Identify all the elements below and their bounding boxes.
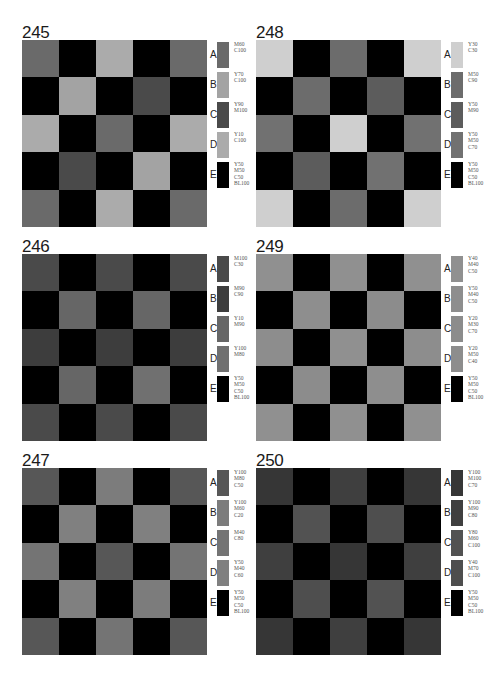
color-swatch bbox=[217, 316, 229, 342]
grid-cell-c bbox=[367, 291, 404, 328]
legend-letter: E bbox=[444, 169, 451, 180]
grid-cell-d bbox=[133, 366, 170, 403]
color-swatch bbox=[451, 162, 463, 188]
grid-cell-e bbox=[293, 543, 330, 580]
color-panel-247: 247AY100 M80 C50BY100 M60 C20CM40 C80DY5… bbox=[22, 452, 274, 667]
grid-cell-e bbox=[256, 580, 293, 617]
grid-cell-b bbox=[256, 543, 293, 580]
grid-cell-e bbox=[367, 190, 404, 227]
grid-cell-e bbox=[404, 291, 441, 328]
cmyk-code-label: Y40 M40 C50 bbox=[468, 255, 478, 274]
grid-cell-e bbox=[59, 40, 96, 77]
grid-cell-a bbox=[404, 190, 441, 227]
cmyk-code-label: Y80 M60 C100 bbox=[468, 529, 480, 548]
grid-cell-a bbox=[96, 543, 133, 580]
grid-cell-d bbox=[367, 152, 404, 189]
grid-cell-e bbox=[96, 152, 133, 189]
grid-cell-d bbox=[59, 505, 96, 542]
grid-cell-e bbox=[133, 404, 170, 441]
grid-cell-e bbox=[59, 543, 96, 580]
color-legend: AY40 M40 C50BY50 M40 C50CY20 M30 C70DY20… bbox=[443, 254, 504, 441]
grid-cell-b bbox=[330, 40, 367, 77]
grid-cell-c bbox=[293, 505, 330, 542]
grid-cell-e bbox=[404, 77, 441, 114]
grid-cell-e bbox=[256, 77, 293, 114]
grid-cell-a bbox=[96, 404, 133, 441]
color-swatch bbox=[217, 102, 229, 128]
color-swatch bbox=[217, 132, 229, 158]
grid-cell-a bbox=[330, 115, 367, 152]
grid-cell-a bbox=[22, 254, 59, 291]
grid-cell-a bbox=[330, 329, 367, 366]
grid-cell-e bbox=[170, 77, 207, 114]
color-swatch bbox=[451, 376, 463, 402]
grid-cell-e bbox=[59, 618, 96, 655]
grid-cell-b bbox=[170, 329, 207, 366]
panel-title: 247 bbox=[22, 452, 49, 469]
grid-cell-c bbox=[133, 291, 170, 328]
grid-cell-e bbox=[367, 40, 404, 77]
legend-letter: B bbox=[210, 507, 217, 518]
grid-cell-d bbox=[59, 580, 96, 617]
legend-row-d: DY20 M50 C40 bbox=[443, 346, 504, 373]
grid-cell-a bbox=[22, 404, 59, 441]
grid-cell-b bbox=[59, 77, 96, 114]
cmyk-code-label: Y50 M50 C50 BL100 bbox=[468, 375, 483, 400]
color-swatch bbox=[451, 500, 463, 526]
grid-cell-a bbox=[22, 618, 59, 655]
grid-cell-e bbox=[367, 543, 404, 580]
grid-cell-e bbox=[256, 152, 293, 189]
grid-cell-a bbox=[170, 254, 207, 291]
grid-cell-a bbox=[330, 404, 367, 441]
grid-cell-e bbox=[133, 40, 170, 77]
grid-cell-c bbox=[59, 291, 96, 328]
color-panel-250: 250AY100 M100 C70BY100 M90 C80CY80 M60 C… bbox=[256, 452, 504, 667]
grid-cell-e bbox=[133, 618, 170, 655]
grid-cell-a bbox=[330, 543, 367, 580]
color-panel-245: 245AM60 C100BY70 C100CY90 M100DY10 C100E… bbox=[22, 24, 274, 239]
grid-cell-e bbox=[22, 580, 59, 617]
grid-cell-a bbox=[170, 40, 207, 77]
legend-letter: A bbox=[444, 49, 451, 60]
grid-cell-d bbox=[96, 40, 133, 77]
grid-cell-c bbox=[133, 77, 170, 114]
color-swatch bbox=[217, 286, 229, 312]
panel-title: 249 bbox=[256, 238, 283, 255]
grid-cell-e bbox=[293, 618, 330, 655]
grid-cell-d bbox=[256, 115, 293, 152]
checker-grid bbox=[256, 254, 441, 441]
cmyk-code-label: Y20 M50 C40 bbox=[468, 345, 478, 364]
grid-cell-a bbox=[256, 254, 293, 291]
cmyk-code-label: M50 C90 bbox=[468, 71, 478, 84]
legend-letter: B bbox=[210, 293, 217, 304]
grid-cell-d bbox=[22, 115, 59, 152]
grid-cell-e bbox=[293, 329, 330, 366]
legend-row-b: BY50 M40 C50 bbox=[443, 286, 504, 313]
grid-cell-b bbox=[330, 618, 367, 655]
grid-cell-e bbox=[293, 40, 330, 77]
grid-cell-e bbox=[367, 618, 404, 655]
color-swatch bbox=[217, 500, 229, 526]
grid-cell-d bbox=[367, 505, 404, 542]
legend-row-e: EY50 M50 C50 BL100 bbox=[443, 162, 504, 189]
grid-cell-b bbox=[22, 329, 59, 366]
cmyk-code-label: Y40 M70 C100 bbox=[468, 559, 480, 578]
grid-cell-b bbox=[133, 152, 170, 189]
cmyk-code-label: Y50 M50 C50 BL100 bbox=[234, 161, 249, 186]
grid-cell-e bbox=[330, 77, 367, 114]
color-swatch bbox=[451, 132, 463, 158]
grid-cell-d bbox=[404, 115, 441, 152]
grid-cell-e bbox=[170, 505, 207, 542]
color-swatch bbox=[217, 560, 229, 586]
grid-cell-e bbox=[96, 366, 133, 403]
cmyk-code-label: Y30 C30 bbox=[468, 41, 477, 54]
cmyk-code-label: Y100 M80 C50 bbox=[234, 469, 246, 488]
grid-cell-d bbox=[133, 505, 170, 542]
grid-cell-e bbox=[22, 366, 59, 403]
grid-cell-d bbox=[404, 329, 441, 366]
cmyk-code-label: Y50 M40 C50 bbox=[468, 285, 478, 304]
grid-cell-a bbox=[256, 404, 293, 441]
grid-cell-a bbox=[256, 468, 293, 505]
grid-cell-e bbox=[170, 580, 207, 617]
grid-cell-e bbox=[404, 152, 441, 189]
